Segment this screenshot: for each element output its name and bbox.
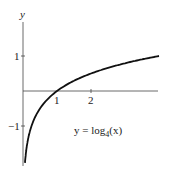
log-curve (25, 56, 159, 163)
function-label: y = log4(x) (74, 124, 122, 139)
y-tick-label-1: 1 (14, 50, 20, 62)
y-tick-label-neg1: −1 (8, 120, 20, 132)
x-tick-label-2: 2 (88, 94, 94, 106)
log-chart: y 1 −1 1 2 y = log4(x) (0, 0, 171, 177)
y-axis-label: y (19, 8, 25, 20)
x-tick-label-1: 1 (54, 94, 60, 106)
